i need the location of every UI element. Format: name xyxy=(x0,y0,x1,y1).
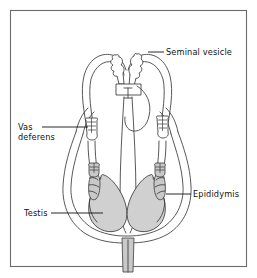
label-vas-deferens-line2: deferens xyxy=(18,132,55,142)
label-vas-deferens-line1: Vas xyxy=(18,122,33,132)
label-epididymis: Epididymis xyxy=(193,189,239,199)
anatomy-diagram-svg: Seminal vesicle Vas deferens Epididymis … xyxy=(0,0,257,278)
label-testis: Testis xyxy=(23,208,48,218)
label-seminal-vesicle: Seminal vesicle xyxy=(166,47,232,57)
anatomy-figure: Seminal vesicle Vas deferens Epididymis … xyxy=(0,0,257,278)
prostate-gland xyxy=(116,84,141,95)
